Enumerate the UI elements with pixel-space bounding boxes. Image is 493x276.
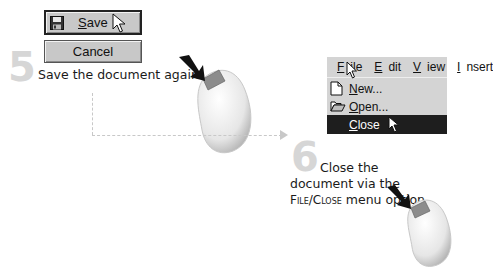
step-number-5: 5 (8, 47, 36, 87)
menu-bar: File Edit View Insert (327, 57, 447, 78)
mouse-click-illustration-5 (175, 55, 265, 169)
menu-path: File/Close (290, 193, 342, 207)
file-menu-screenshot: File Edit View Insert New... Open... Clo… (327, 57, 447, 134)
save-button[interactable]: Save (44, 10, 142, 35)
mouse-icon (175, 55, 265, 165)
cancel-button-label: Cancel (73, 44, 113, 59)
dashed-connector-horizontal (92, 135, 282, 136)
cancel-button[interactable]: Cancel (44, 40, 142, 63)
save-button-label: Save (78, 15, 108, 30)
menu-view[interactable]: View (407, 60, 445, 74)
open-folder-icon (330, 99, 346, 116)
dashed-connector-vertical (92, 93, 93, 135)
mouse-icon (383, 183, 461, 273)
mouse-pointer-icon (388, 116, 400, 136)
menu-insert[interactable]: Insert (451, 60, 493, 74)
floppy-disk-icon (50, 16, 64, 30)
menu-item-new[interactable]: New... (327, 79, 447, 98)
menu-edit[interactable]: Edit (368, 60, 401, 74)
mouse-click-illustration-6 (383, 183, 461, 276)
mouse-pointer-icon (112, 13, 128, 36)
menu-item-open[interactable]: Open... (327, 97, 447, 116)
connector-arrow-icon (280, 130, 288, 140)
menu-item-close[interactable]: Close (327, 115, 447, 134)
